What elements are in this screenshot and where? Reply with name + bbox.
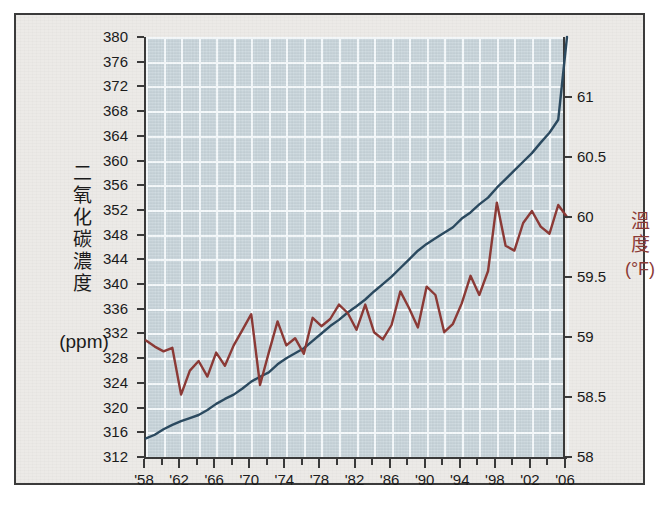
- x-tick-mark-minor: [161, 459, 163, 465]
- right-axis-title-char: 度: [612, 233, 668, 256]
- right-axis-title: 溫度: [612, 210, 668, 256]
- left-tick-mark: [137, 110, 144, 112]
- right-tick-label: 59: [577, 330, 594, 344]
- x-tick-mark-minor: [546, 459, 548, 465]
- left-tick-mark: [137, 160, 144, 162]
- left-axis-title-char: 度: [60, 273, 106, 295]
- left-tick-mark: [137, 209, 144, 211]
- x-tick-mark-minor: [511, 459, 513, 465]
- x-tick-label: '82: [345, 471, 365, 488]
- left-tick-mark: [137, 357, 144, 359]
- right-tick-label: 58.5: [577, 390, 606, 404]
- left-tick-label: 356: [103, 178, 128, 192]
- left-axis-title-char: 濃: [60, 251, 106, 273]
- x-tick-mark-major: [213, 459, 215, 468]
- x-tick-mark-major: [424, 459, 426, 468]
- right-tick-label: 60.5: [577, 150, 606, 164]
- x-tick-mark-major: [389, 459, 391, 468]
- left-tick-label: 368: [103, 104, 128, 118]
- left-tick-label: 336: [103, 302, 128, 316]
- left-tick-mark: [137, 382, 144, 384]
- x-tick-mark-minor: [301, 459, 303, 465]
- x-tick-mark-major: [318, 459, 320, 468]
- right-axis-title-char: 溫: [612, 210, 668, 233]
- left-tick-mark: [137, 332, 144, 334]
- left-tick-mark: [137, 61, 144, 63]
- x-tick-mark-minor: [371, 459, 373, 465]
- x-tick-mark-major: [494, 459, 496, 468]
- left-tick-label: 372: [103, 79, 128, 93]
- x-axis-line: [144, 457, 567, 459]
- plot-area: [144, 37, 565, 457]
- left-tick-label: 312: [103, 450, 128, 464]
- x-tick-mark-major: [143, 459, 145, 468]
- right-tick-mark: [565, 336, 572, 338]
- x-tick-mark-major: [564, 459, 566, 468]
- left-tick-label: 364: [103, 129, 128, 143]
- right-tick-mark: [565, 216, 572, 218]
- left-axis-title: 二氧化碳濃度: [60, 163, 106, 295]
- right-tick-mark: [565, 276, 572, 278]
- right-tick-label: 59.5: [577, 270, 606, 284]
- x-tick-mark-minor: [196, 459, 198, 465]
- right-tick-mark: [565, 456, 572, 458]
- right-tick-mark: [565, 156, 572, 158]
- x-tick-mark-minor: [266, 459, 268, 465]
- left-tick-label: 324: [103, 376, 128, 390]
- left-tick-mark: [137, 36, 144, 38]
- x-tick-label: '62: [169, 471, 189, 488]
- left-tick-mark: [137, 258, 144, 260]
- left-axis-unit: (ppm): [44, 331, 124, 353]
- left-tick-mark: [137, 234, 144, 236]
- left-tick-label: 352: [103, 203, 128, 217]
- x-tick-mark-major: [529, 459, 531, 468]
- left-tick-label: 340: [103, 277, 128, 291]
- left-tick-mark: [137, 85, 144, 87]
- left-tick-label: 344: [103, 252, 128, 266]
- right-tick-mark: [565, 396, 572, 398]
- x-tick-mark-major: [459, 459, 461, 468]
- x-tick-label: '90: [415, 471, 435, 488]
- x-tick-label: '78: [310, 471, 330, 488]
- left-tick-mark: [137, 308, 144, 310]
- x-tick-mark-major: [354, 459, 356, 468]
- left-axis-title-char: 碳: [60, 229, 106, 251]
- left-tick-label: 360: [103, 154, 128, 168]
- x-tick-mark-major: [178, 459, 180, 468]
- left-tick-mark: [137, 135, 144, 137]
- x-tick-label: '66: [204, 471, 224, 488]
- left-axis-title-char: 氧: [60, 185, 106, 207]
- x-tick-label: '06: [555, 471, 575, 488]
- left-tick-mark: [137, 431, 144, 433]
- right-tick-label: 60: [577, 210, 594, 224]
- x-tick-mark-minor: [406, 459, 408, 465]
- left-tick-mark: [137, 456, 144, 458]
- x-tick-label: '98: [485, 471, 505, 488]
- x-tick-label: '58: [134, 471, 154, 488]
- right-tick-label: 61: [577, 90, 594, 104]
- series-lines: [146, 37, 567, 457]
- right-axis-unit: (°F): [604, 259, 669, 280]
- left-tick-label: 380: [103, 30, 128, 44]
- x-tick-label: '94: [450, 471, 470, 488]
- left-tick-label: 376: [103, 55, 128, 69]
- left-tick-label: 320: [103, 401, 128, 415]
- x-tick-label: '70: [239, 471, 259, 488]
- left-tick-mark: [137, 184, 144, 186]
- x-tick-mark-minor: [476, 459, 478, 465]
- left-axis-title-char: 化: [60, 207, 106, 229]
- left-tick-mark: [137, 283, 144, 285]
- right-tick-label: 58: [577, 450, 594, 464]
- x-tick-mark-minor: [336, 459, 338, 465]
- chart-page: 3123163203243283323363403443483523563603…: [0, 0, 669, 516]
- x-tick-label: '86: [380, 471, 400, 488]
- x-tick-label: '02: [520, 471, 540, 488]
- chart-card: 3123163203243283323363403443483523563603…: [14, 13, 645, 485]
- gridline-vertical: [567, 37, 569, 457]
- left-tick-label: 348: [103, 228, 128, 242]
- x-tick-mark-major: [248, 459, 250, 468]
- x-tick-label: '74: [275, 471, 295, 488]
- series-line-temperature: [146, 203, 567, 395]
- left-tick-label: 328: [103, 351, 128, 365]
- left-tick-label: 316: [103, 425, 128, 439]
